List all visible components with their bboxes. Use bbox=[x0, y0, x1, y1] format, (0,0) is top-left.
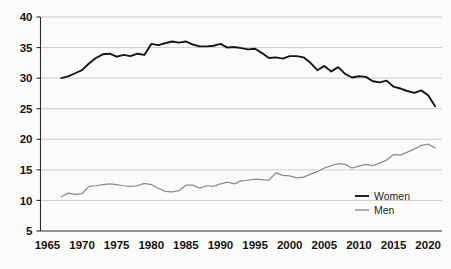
x-axis-tick-label: 1975 bbox=[104, 239, 130, 251]
y-axis-tick-label: 5 bbox=[26, 225, 33, 237]
y-axis-tick-label: 25 bbox=[20, 103, 33, 115]
line-chart: 5101520253035401965197019751980198519901… bbox=[0, 0, 451, 269]
x-axis-tick-label: 1965 bbox=[35, 239, 61, 251]
x-axis-tick-label: 1970 bbox=[69, 239, 95, 251]
legend-label-men: Men bbox=[374, 204, 395, 216]
x-axis-tick-label: 1995 bbox=[242, 239, 268, 251]
x-axis-tick-label: 2010 bbox=[346, 239, 372, 251]
legend-label-women: Women bbox=[374, 190, 410, 202]
x-axis-tick-label: 1990 bbox=[208, 239, 234, 251]
y-axis-tick-label: 10 bbox=[20, 195, 33, 207]
chart-container: 5101520253035401965197019751980198519901… bbox=[0, 0, 451, 269]
y-axis-tick-label: 30 bbox=[20, 72, 33, 84]
x-axis-tick-label: 1980 bbox=[138, 239, 164, 251]
y-axis-tick-label: 20 bbox=[20, 133, 33, 145]
series-line-women bbox=[61, 41, 435, 106]
x-axis-tick-label: 2000 bbox=[277, 239, 303, 251]
y-axis-tick-label: 15 bbox=[20, 164, 33, 176]
y-axis-tick-label: 35 bbox=[20, 42, 33, 54]
x-axis-tick-label: 2020 bbox=[415, 239, 441, 251]
x-axis-tick-label: 2015 bbox=[381, 239, 407, 251]
y-axis-tick-label: 40 bbox=[20, 11, 33, 23]
x-axis-tick-label: 2005 bbox=[312, 239, 338, 251]
x-axis-tick-label: 1985 bbox=[173, 239, 199, 251]
